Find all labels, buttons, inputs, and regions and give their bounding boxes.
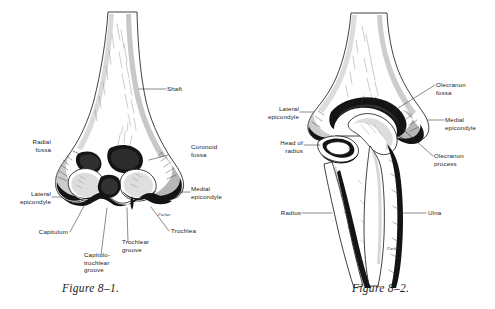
label-olecranon-fossa: Olecranon fossa xyxy=(436,81,466,96)
label-capitulum: Capitulum xyxy=(19,228,68,236)
figure-1-caption: Figure 8–1. xyxy=(62,282,119,294)
label-lateral-epicondyle: Lateral epicondyle xyxy=(255,105,299,120)
illustration-plate: Parker Shaft Radial fossa Coronoid fossa… xyxy=(0,0,495,309)
label-coronoid-fossa: Coronoid fossa xyxy=(191,143,217,158)
humerus-anterior xyxy=(55,12,184,210)
label-lateral-epicondyle: Lateral epicondyle xyxy=(9,190,51,205)
label-trochlear-groove: Trochlear groove xyxy=(122,238,149,253)
label-ulna: Ulna xyxy=(428,209,441,217)
label-capitulo-trochlear-groove: Capitulo- trochlear groove xyxy=(84,251,110,274)
label-olecranon-process: Olecranon process xyxy=(434,152,464,167)
label-medial-epicondyle: Medial epicondyle xyxy=(191,185,222,200)
artist-signature: Parker xyxy=(157,212,171,217)
figure-2-caption: Figure 8–2. xyxy=(352,282,409,294)
artist-signature: Parker xyxy=(386,246,400,251)
label-head-of-radius: Head of radius xyxy=(260,139,303,154)
label-radial-fossa: Radial fossa xyxy=(26,138,51,153)
figure-2: Parker Olecranon fossa Lateral epicondyl… xyxy=(248,0,495,309)
figure-1: Parker Shaft Radial fossa Coronoid fossa… xyxy=(0,0,247,309)
label-radius: Radius xyxy=(262,209,301,217)
elbow-posterior xyxy=(307,13,429,288)
label-trochlea: Trochlea xyxy=(171,227,196,235)
label-medial-epicondyle: Medial epicondyle xyxy=(445,116,476,131)
label-shaft: Shaft xyxy=(167,85,182,93)
